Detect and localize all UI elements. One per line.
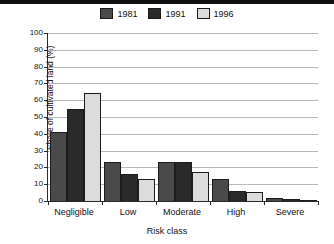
scan-edge-band (0, 0, 334, 4)
legend-swatch-icon (100, 8, 113, 19)
x-tick-mark (48, 201, 49, 205)
y-tick-label: 60 (34, 96, 43, 104)
bar-1981-severe[interactable] (266, 198, 283, 201)
x-tick-label-low: Low (120, 207, 137, 217)
x-tick-mark (210, 201, 211, 205)
x-tick-label-moderate: Moderate (163, 207, 201, 217)
bar-1981-low[interactable] (104, 162, 121, 201)
plot-area: Share of cultivated land (%) 01020304050… (47, 33, 318, 202)
bars-layer (48, 33, 318, 201)
x-tick-label-negligible: Negligible (54, 207, 94, 217)
bar-1996-high[interactable] (246, 192, 263, 201)
x-tick-label-severe: Severe (276, 207, 305, 217)
bar-group-moderate (156, 33, 210, 201)
bar-1981-high[interactable] (212, 179, 229, 201)
legend-item-1996[interactable]: 1996 (197, 8, 234, 19)
legend-label: 1996 (214, 9, 234, 19)
y-tick-label: 10 (34, 180, 43, 188)
x-tick-label-high: High (227, 207, 246, 217)
legend-label: 1991 (165, 9, 185, 19)
x-tick-mark (264, 201, 265, 205)
legend-swatch-icon (148, 8, 161, 19)
x-axis-title: Risk class (0, 226, 334, 236)
bar-1991-severe[interactable] (283, 199, 300, 201)
bar-group-severe (264, 33, 318, 201)
bar-1981-moderate[interactable] (158, 162, 175, 201)
bar-1996-severe[interactable] (300, 200, 317, 201)
legend-item-1991[interactable]: 1991 (148, 8, 185, 19)
y-tick-label: 40 (34, 130, 43, 138)
x-tick-mark (156, 201, 157, 205)
bar-1991-negligible[interactable] (67, 109, 84, 201)
y-tick-label: 90 (34, 46, 43, 54)
chart-figure: 198119911996 Share of cultivated land (%… (0, 0, 334, 244)
y-tick-label: 50 (34, 113, 43, 121)
bar-group-low (102, 33, 156, 201)
bar-1991-high[interactable] (229, 191, 246, 201)
y-tick-label: 80 (34, 63, 43, 71)
bar-1996-moderate[interactable] (192, 172, 209, 201)
bar-1996-low[interactable] (138, 179, 155, 201)
legend-label: 1981 (117, 9, 137, 19)
y-tick-label: 100 (30, 29, 43, 37)
x-tick-mark (102, 201, 103, 205)
bar-1991-low[interactable] (121, 174, 138, 201)
x-tick-mark (318, 201, 319, 205)
y-tick-label: 30 (34, 147, 43, 155)
bar-1991-moderate[interactable] (175, 162, 192, 201)
legend-item-1981[interactable]: 1981 (100, 8, 137, 19)
bar-group-negligible (48, 33, 102, 201)
bar-group-high (210, 33, 264, 201)
y-tick-label: 0 (39, 197, 43, 205)
y-tick-label: 70 (34, 79, 43, 87)
chart-legend: 198119911996 (0, 8, 334, 19)
bar-1981-negligible[interactable] (50, 132, 67, 201)
legend-swatch-icon (197, 8, 210, 19)
bar-1996-negligible[interactable] (84, 93, 101, 201)
y-tick-label: 20 (34, 163, 43, 171)
